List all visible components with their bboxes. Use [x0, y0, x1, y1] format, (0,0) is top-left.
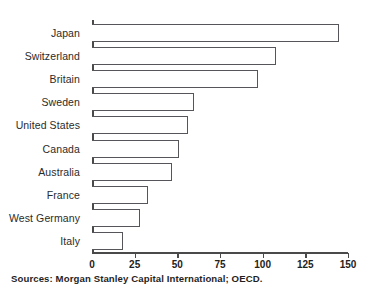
x-tick-mark	[177, 253, 178, 258]
bar	[92, 232, 123, 250]
bar	[92, 116, 188, 134]
category-axis: JapanSwitzerlandBritainSwedenUnited Stat…	[0, 20, 86, 252]
x-tick-mark	[348, 253, 349, 258]
x-tick-label: 50	[172, 259, 183, 271]
bar	[92, 209, 140, 227]
category-label: Sweden	[41, 95, 80, 109]
bar-chart: JapanSwitzerlandBritainSwedenUnited Stat…	[0, 0, 369, 299]
category-label: Canada	[43, 142, 80, 156]
category-label: Britain	[50, 72, 80, 86]
category-label: Switzerland	[25, 49, 80, 63]
x-tick-label: 150	[340, 259, 357, 271]
x-tick-mark	[220, 253, 221, 258]
x-tick-mark	[135, 253, 136, 258]
x-tick-label: 0	[89, 259, 95, 271]
x-tick-mark	[263, 253, 264, 258]
bar	[92, 70, 258, 88]
source-note: Sources: Morgan Stanley Capital Internat…	[11, 272, 262, 285]
bar	[92, 140, 179, 158]
bar	[92, 186, 148, 204]
x-tick-label: 25	[129, 259, 140, 271]
bar	[92, 93, 194, 111]
category-label: United States	[16, 118, 80, 132]
x-tick-mark	[305, 253, 306, 258]
x-tick-label: 75	[214, 259, 225, 271]
bar	[92, 163, 172, 181]
x-tick-label: 125	[297, 259, 314, 271]
category-label: Australia	[38, 165, 80, 179]
category-label: France	[47, 188, 80, 202]
x-tick-label: 100	[254, 259, 271, 271]
category-label: Japan	[51, 26, 80, 40]
category-label: West Germany	[9, 211, 80, 225]
bar	[92, 24, 339, 42]
bar	[92, 47, 276, 65]
category-label: Italy	[60, 234, 80, 248]
plot-area	[92, 20, 348, 252]
